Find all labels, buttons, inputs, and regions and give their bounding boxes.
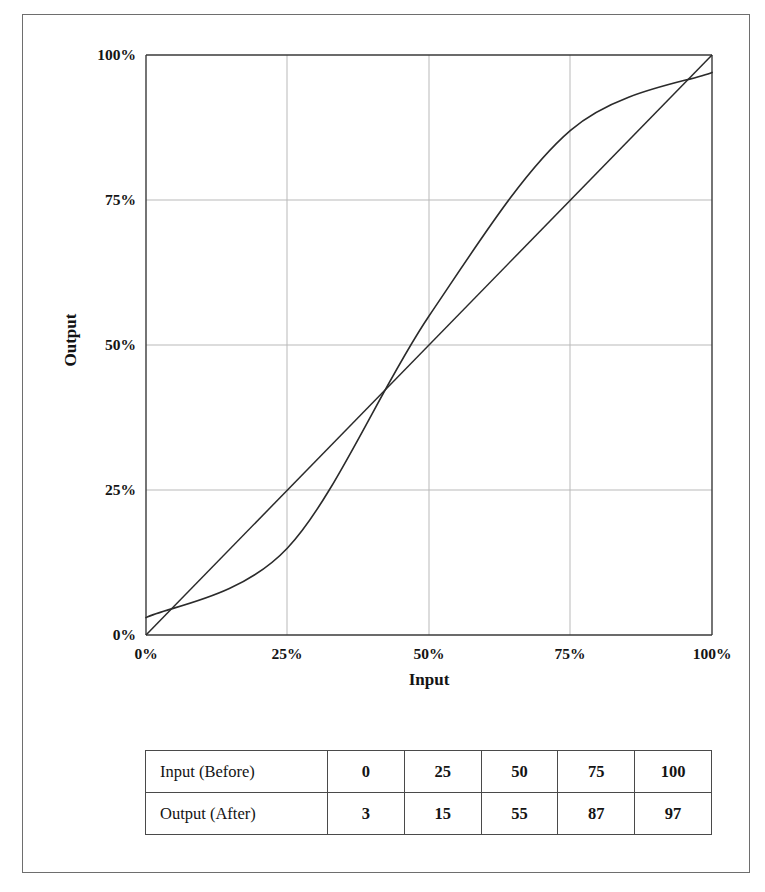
cell-output-25: 15 bbox=[404, 793, 481, 835]
plot-canvas bbox=[0, 0, 765, 710]
table-body: Input (Before) 0 25 50 75 100 Output (Af… bbox=[146, 751, 712, 835]
cell-output-0: 3 bbox=[328, 793, 405, 835]
x-tick-label-100: 100% bbox=[672, 645, 752, 663]
row-header-input-before: Input (Before) bbox=[146, 751, 328, 793]
y-tick-label-75: 75% bbox=[36, 191, 136, 209]
x-tick-label-0: 0% bbox=[106, 645, 186, 663]
cell-input-50: 50 bbox=[481, 751, 558, 793]
cell-input-75: 75 bbox=[558, 751, 635, 793]
input-output-table: Input (Before) 0 25 50 75 100 Output (Af… bbox=[145, 750, 712, 835]
y-tick-label-0: 0% bbox=[36, 626, 136, 644]
cell-output-100: 97 bbox=[635, 793, 712, 835]
y-tick-label-100: 100% bbox=[36, 46, 136, 64]
row-header-output-after: Output (After) bbox=[146, 793, 328, 835]
cell-output-50: 55 bbox=[481, 793, 558, 835]
chart-figure: 100% 75% 50% 25% 0% 0% 25% 50% 75% 100% … bbox=[0, 0, 765, 710]
y-tick-label-50: 50% bbox=[36, 336, 136, 354]
x-tick-label-50: 50% bbox=[389, 645, 469, 663]
x-tick-label-75: 75% bbox=[530, 645, 610, 663]
y-axis-title: Output bbox=[61, 265, 81, 415]
x-tick-label-25: 25% bbox=[247, 645, 327, 663]
y-tick-label-25: 25% bbox=[36, 481, 136, 499]
x-axis-title: Input bbox=[146, 670, 712, 690]
cell-input-100: 100 bbox=[635, 751, 712, 793]
table-row: Output (After) 3 15 55 87 97 bbox=[146, 793, 712, 835]
cell-input-0: 0 bbox=[328, 751, 405, 793]
table-row: Input (Before) 0 25 50 75 100 bbox=[146, 751, 712, 793]
cell-output-75: 87 bbox=[558, 793, 635, 835]
cell-input-25: 25 bbox=[404, 751, 481, 793]
